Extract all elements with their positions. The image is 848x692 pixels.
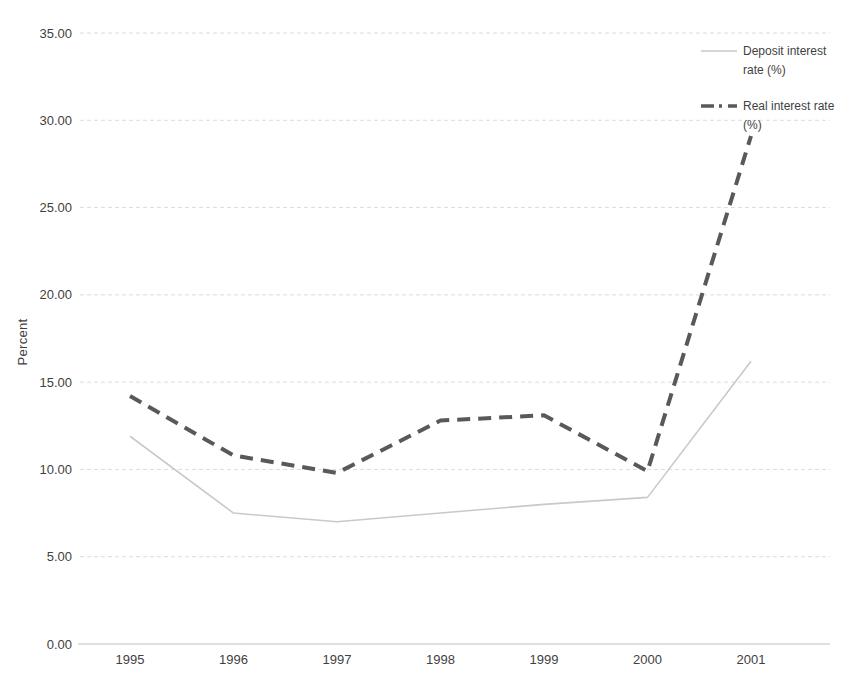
legend-entry-deposit: Deposit interest rate (%): [700, 42, 840, 80]
x-tick-label: 1996: [219, 652, 248, 667]
legend-label-deposit: Deposit interest rate (%): [743, 42, 835, 80]
x-tick-label: 2001: [737, 652, 766, 667]
x-tick-label: 1995: [116, 652, 145, 667]
chart-page: 0.005.0010.0015.0020.0025.0030.0035.0019…: [0, 0, 848, 692]
series-line-1: [130, 136, 751, 473]
real-line-sample-icon: [700, 103, 738, 109]
y-tick-label: 30.00: [39, 113, 72, 128]
y-tick-label: 20.00: [39, 287, 72, 302]
y-axis-title: Percent: [15, 319, 30, 366]
y-tick-label: 10.00: [39, 462, 72, 477]
x-tick-label: 2000: [633, 652, 662, 667]
y-tick-label: 5.00: [47, 549, 72, 564]
x-tick-label: 1997: [323, 652, 352, 667]
x-tick-label: 1999: [530, 652, 559, 667]
legend-entry-real: Real interest rate (%): [700, 97, 840, 135]
x-tick-label: 1998: [426, 652, 455, 667]
y-tick-label: 0.00: [47, 637, 72, 652]
legend: Deposit interest rate (%) Real interest …: [700, 42, 840, 152]
y-tick-label: 25.00: [39, 200, 72, 215]
y-tick-label: 35.00: [39, 26, 72, 41]
legend-label-real: Real interest rate (%): [743, 97, 835, 135]
deposit-line-sample-icon: [700, 48, 738, 54]
y-tick-label: 15.00: [39, 375, 72, 390]
